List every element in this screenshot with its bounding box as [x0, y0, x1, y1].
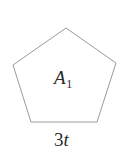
area-label-subscript: 1	[66, 77, 72, 91]
area-label-symbol: A	[54, 67, 66, 88]
base-label-coefficient: 3	[54, 129, 64, 150]
base-label-variable: t	[64, 129, 69, 150]
area-label: A1	[54, 68, 72, 90]
pentagon-figure: A1 3t	[0, 0, 131, 163]
base-length-label: 3t	[54, 130, 69, 149]
